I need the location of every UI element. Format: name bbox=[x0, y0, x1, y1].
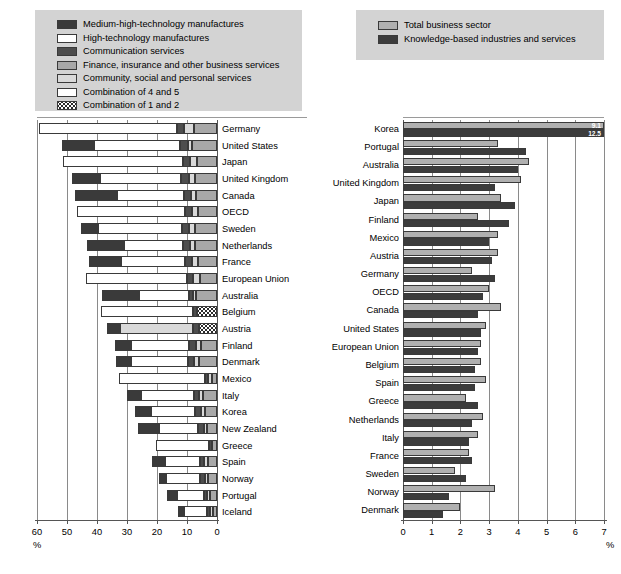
left-chart-bar-segment bbox=[189, 173, 195, 184]
right-chart-tick-label: 2 bbox=[458, 527, 463, 537]
right-chart-bar-row[interactable]: 9.112.5Korea bbox=[403, 122, 604, 137]
left-chart-bar-row[interactable]: Canada bbox=[37, 190, 217, 201]
right-chart-bar-row[interactable]: United States bbox=[403, 322, 604, 337]
left-chart-category-label: New Zealand bbox=[222, 424, 277, 434]
right-chart-bar-row[interactable]: Japan bbox=[403, 194, 604, 209]
legend-item-label: High-technology manufactures bbox=[83, 33, 209, 44]
right-legend-items: Total business sectorKnowledge-based ind… bbox=[356, 10, 604, 46]
left-chart-bar-segment bbox=[98, 223, 182, 234]
left-chart-bar-segment bbox=[63, 156, 183, 167]
right-chart-knowledge-bar bbox=[403, 329, 481, 336]
right-chart-bar-row[interactable]: Italy bbox=[403, 431, 604, 446]
left-chart-category-label: Canada bbox=[222, 191, 255, 201]
left-chart-bar-segment bbox=[100, 173, 182, 184]
left-chart-bar-segment bbox=[199, 323, 217, 334]
left-chart-category-label: Australia bbox=[222, 291, 258, 301]
left-chart-bar-row[interactable]: Portugal bbox=[37, 490, 217, 501]
left-chart-bar-row[interactable]: New Zealand bbox=[37, 423, 217, 434]
left-chart-bar-segment bbox=[131, 356, 188, 367]
left-legend-item: Combination of 4 and 5 bbox=[57, 86, 302, 99]
left-chart-bar-row[interactable]: France bbox=[37, 256, 217, 267]
right-chart-knowledge-bar bbox=[403, 511, 443, 518]
right-chart-bar-row[interactable]: European Union bbox=[403, 340, 604, 355]
right-chart-bar-row[interactable]: Australia bbox=[403, 158, 604, 173]
right-chart-bar-value-label: 12.5 bbox=[588, 129, 601, 136]
right-chart-bar-row[interactable]: Portugal bbox=[403, 140, 604, 155]
right-chart-bar-row[interactable]: United Kingdom bbox=[403, 176, 604, 191]
right-chart-bar-row[interactable]: Denmark bbox=[403, 503, 604, 518]
legend-swatch-icon bbox=[57, 88, 77, 97]
right-chart-bar-row[interactable]: Sweden bbox=[403, 467, 604, 482]
left-chart-category-label: Japan bbox=[222, 157, 247, 167]
left-chart-bar-row[interactable]: Austria bbox=[37, 323, 217, 334]
right-chart-bar-row[interactable]: Germany bbox=[403, 267, 604, 282]
right-chart-category-label: OECD bbox=[372, 287, 399, 297]
left-chart-tick-label: 20 bbox=[152, 527, 162, 537]
right-chart-bar-row[interactable]: Spain bbox=[403, 376, 604, 391]
right-chart-bar-row[interactable]: Austria bbox=[403, 249, 604, 264]
left-chart-top-rule bbox=[37, 117, 307, 118]
right-chart-bar-row[interactable]: France bbox=[403, 449, 604, 464]
right-chart-bar-row[interactable]: Mexico bbox=[403, 231, 604, 246]
left-chart-bar-segment bbox=[81, 223, 98, 234]
left-chart-bar-row[interactable]: Italy bbox=[37, 390, 217, 401]
left-chart-bar-row[interactable]: Mexico bbox=[37, 373, 217, 384]
right-chart-bar-row[interactable]: Canada bbox=[403, 303, 604, 318]
right-legend-item: Knowledge-based industries and services bbox=[378, 33, 604, 46]
right-chart-total-bar bbox=[403, 322, 486, 329]
right-chart-bar-row[interactable]: Belgium bbox=[403, 358, 604, 373]
left-chart-bar-row[interactable]: OECD bbox=[37, 206, 217, 217]
left-chart-bar-row[interactable]: Norway bbox=[37, 473, 217, 484]
left-chart-bar-row[interactable]: Belgium bbox=[37, 306, 217, 317]
left-chart-category-label: United States bbox=[222, 141, 278, 151]
legend-swatch-icon bbox=[57, 101, 77, 110]
left-chart-bar-row[interactable]: Greece bbox=[37, 440, 217, 451]
left-chart-panel: GermanyUnited StatesJapanUnited KingdomC… bbox=[0, 115, 310, 574]
right-chart-total-bar bbox=[403, 376, 486, 383]
left-chart-bar-row[interactable]: Sweden bbox=[37, 223, 217, 234]
left-chart-bar-row[interactable]: Finland bbox=[37, 340, 217, 351]
left-chart-bar-row[interactable]: European Union bbox=[37, 273, 217, 284]
left-chart-bar-row[interactable]: Japan bbox=[37, 156, 217, 167]
right-chart-category-label: Korea bbox=[374, 124, 399, 134]
left-chart-bar-segment bbox=[190, 156, 197, 167]
left-chart-bar-row[interactable]: Iceland bbox=[37, 506, 217, 517]
left-chart-category-label: Spain bbox=[222, 457, 246, 467]
right-chart-category-label: Germany bbox=[361, 269, 399, 279]
legend-item-label: Combination of 1 and 2 bbox=[83, 100, 179, 111]
right-chart-axis-unit: % bbox=[606, 540, 614, 550]
legend-item-label: Community, social and personal services bbox=[83, 73, 251, 84]
left-chart-bar-row[interactable]: United Kingdom bbox=[37, 173, 217, 184]
right-chart-bar-row[interactable]: Finland bbox=[403, 213, 604, 228]
right-chart-bar-row[interactable]: Netherlands bbox=[403, 413, 604, 428]
left-chart-bar-row[interactable]: Netherlands bbox=[37, 240, 217, 251]
left-chart-bar-row[interactable]: Germany bbox=[37, 123, 217, 134]
right-chart-category-label: Portugal bbox=[364, 142, 399, 152]
left-chart-bar-row[interactable]: Spain bbox=[37, 456, 217, 467]
legend-item-label: Finance, insurance and other business se… bbox=[83, 60, 279, 71]
left-chart-category-label: Finland bbox=[222, 341, 253, 351]
right-chart-tick-label: 7 bbox=[601, 527, 606, 537]
left-chart-bar-segment bbox=[119, 373, 205, 384]
right-chart-total-bar bbox=[403, 303, 501, 310]
right-chart-bar-row[interactable]: Greece bbox=[403, 394, 604, 409]
right-chart-total-bar bbox=[403, 267, 472, 274]
left-chart-bar-segment bbox=[183, 240, 190, 251]
right-chart-total-bar bbox=[403, 449, 469, 456]
right-chart-tick-label: 3 bbox=[487, 527, 492, 537]
left-chart-bar-row[interactable]: Australia bbox=[37, 290, 217, 301]
left-chart-bar-segment bbox=[195, 240, 217, 251]
left-chart-bar-row[interactable]: Korea bbox=[37, 406, 217, 417]
left-chart-bar-row[interactable]: United States bbox=[37, 140, 217, 151]
left-chart-bar-segment bbox=[75, 190, 116, 201]
left-chart-bar-segment bbox=[207, 423, 217, 434]
right-chart-category-label: Netherlands bbox=[349, 415, 399, 425]
right-chart-bar-row[interactable]: Norway bbox=[403, 485, 604, 500]
left-chart-bar-row[interactable]: Denmark bbox=[37, 356, 217, 367]
left-chart-bar-segment bbox=[213, 506, 218, 517]
right-chart-bar-row[interactable]: OECD bbox=[403, 285, 604, 300]
right-chart-knowledge-bar bbox=[403, 257, 492, 264]
right-chart-tick-mark bbox=[547, 520, 548, 524]
left-chart-bar-segment bbox=[205, 373, 208, 384]
right-chart-category-label: Japan bbox=[374, 196, 399, 206]
